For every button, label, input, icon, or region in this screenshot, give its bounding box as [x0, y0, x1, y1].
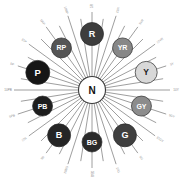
hue-node-label: R — [89, 29, 96, 39]
hue-node-p[interactable]: P — [26, 60, 50, 84]
hue-tick-label: 10R — [115, 6, 121, 13]
hue-tick-label: 10BG — [63, 165, 69, 174]
hue-node-y[interactable]: Y — [135, 61, 157, 83]
hue-node-r[interactable]: R — [81, 23, 104, 46]
hue-spoke-minor — [94, 103, 103, 161]
hue-node-label: G — [121, 130, 128, 140]
hue-tick-label: 10GY — [156, 135, 165, 143]
hue-tick-label: 10Y — [173, 88, 179, 92]
hue-tick-label: 10B — [21, 136, 28, 142]
hue-node-label: GY — [136, 103, 146, 110]
hue-tick-label: 10P — [21, 37, 28, 43]
hue-node-yr[interactable]: YR — [113, 38, 133, 58]
hue-node-b[interactable]: B — [48, 124, 71, 147]
hue-node-label: RP — [57, 44, 67, 51]
hue-tick-label: 10YR — [156, 36, 165, 44]
hue-tick-label: 5Y — [169, 62, 174, 67]
hue-tick-label: 5PB — [9, 113, 16, 119]
center-neutral-node[interactable]: N — [79, 77, 106, 104]
hue-spoke-minor — [81, 103, 90, 161]
hue-node-bg[interactable]: BG — [82, 132, 102, 152]
hue-tick-label: 5GY — [168, 113, 175, 119]
hue-tick-label: 5BG — [90, 171, 94, 178]
hue-tick-label: 10PB — [4, 88, 12, 92]
hue-tick-label: 5P — [10, 62, 15, 67]
hue-node-rp[interactable]: RP — [51, 38, 71, 58]
center-label: N — [88, 85, 95, 96]
hue-node-g[interactable]: G — [113, 124, 136, 147]
hue-node-label: Y — [143, 67, 149, 77]
hue-node-label: B — [56, 130, 63, 140]
hue-node-label: PB — [38, 103, 48, 110]
munsell-hue-circle-diagram: 5R10R5YR10YR5Y10Y5GY10GY5G10G5BG10BG5B10… — [0, 0, 184, 180]
hue-node-label: P — [35, 67, 42, 78]
hue-tick-label: 10G — [115, 166, 121, 173]
diagram-canvas: 5R10R5YR10YR5Y10Y5GY10GY5G10G5BG10BG5B10… — [0, 0, 184, 180]
hue-tick-label: 5RP — [39, 18, 46, 25]
hue-node-pb[interactable]: PB — [33, 96, 53, 116]
hue-tick-label: 5YR — [138, 18, 145, 26]
hue-node-label: YR — [118, 44, 128, 51]
hue-tick-label: 10RP — [63, 6, 69, 15]
hue-node-gy[interactable]: GY — [131, 96, 151, 116]
hue-node-label: BG — [87, 139, 98, 146]
hue-tick-label: 5G — [139, 155, 145, 161]
hue-tick-label: 5B — [40, 155, 45, 160]
hue-tick-label: 5R — [90, 3, 94, 8]
